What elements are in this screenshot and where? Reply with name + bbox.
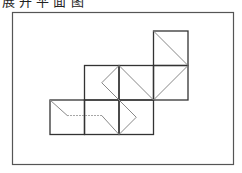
path-segment-7: [50, 100, 67, 116]
path-segment-2: [119, 66, 154, 101]
path-segment-4: [102, 83, 119, 100]
outer-frame: [13, 13, 234, 165]
path-segment-6: [119, 117, 136, 134]
path-segment-0: [154, 31, 189, 66]
path-segment-9: [102, 116, 119, 135]
path-segment-5: [119, 100, 136, 117]
cube-net-diagram: [0, 0, 242, 173]
path-segment-3: [102, 66, 119, 83]
net-squares: [50, 31, 188, 135]
path-segment-1: [154, 66, 189, 101]
